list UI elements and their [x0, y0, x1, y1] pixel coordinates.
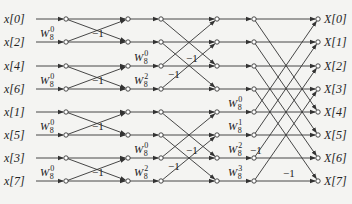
fft-butterfly-diagram: x[0]x[2]x[4]x[6]x[1]x[5]x[3]x[7]X[0]X[1]… [0, 0, 352, 204]
node [126, 87, 130, 91]
minus-one-label: −1 [92, 166, 104, 178]
twiddle-factor-label: W08 [228, 95, 242, 112]
node [252, 17, 256, 21]
minus-one-label: −1 [92, 120, 104, 132]
node [126, 17, 130, 21]
flow-line [161, 44, 215, 89]
input-label: x[5] [3, 128, 25, 142]
node [316, 17, 320, 21]
twiddle-factor-label: W08 [40, 164, 54, 181]
node [215, 110, 219, 114]
input-label: x[4] [3, 59, 25, 73]
flow-line [161, 42, 215, 87]
node [215, 40, 219, 44]
node [64, 40, 68, 44]
output-label: X[2] [323, 59, 347, 73]
twiddle-factor-label: W08 [40, 25, 54, 42]
node [64, 179, 68, 183]
minus-one-label: −1 [92, 74, 104, 86]
flow-line [254, 68, 316, 158]
node [126, 156, 130, 160]
node [64, 64, 68, 68]
flow-line [161, 135, 215, 179]
node [159, 179, 163, 183]
node [126, 133, 130, 137]
minus-one-label: −1 [250, 144, 262, 156]
input-label: x[2] [3, 35, 25, 49]
twiddle-factor-label: W08 [134, 49, 148, 66]
node [215, 133, 219, 137]
output-label: X[5] [323, 128, 347, 142]
node [252, 40, 256, 44]
node [252, 87, 256, 91]
output-label: X[7] [323, 174, 347, 188]
minus-one-label: −1 [168, 160, 180, 172]
node [159, 110, 163, 114]
output-label: X[6] [323, 151, 347, 165]
node [126, 179, 130, 183]
minus-one-label: −1 [283, 167, 295, 179]
input-label: x[7] [3, 174, 25, 188]
twiddle-factor-label: W28 [134, 164, 148, 181]
node [159, 87, 163, 91]
node [126, 64, 130, 68]
node [316, 156, 320, 160]
node [252, 133, 256, 137]
flow-line [254, 21, 316, 112]
twiddle-factor-label: W28 [228, 141, 242, 158]
node [159, 17, 163, 21]
node [316, 64, 320, 68]
node [316, 40, 320, 44]
minus-one-label: −1 [186, 144, 198, 156]
flow-line [254, 66, 316, 156]
input-label: x[3] [3, 151, 25, 165]
minus-one-label: −1 [186, 52, 198, 64]
twiddle-factor-label: W28 [134, 72, 148, 89]
flow-line [254, 89, 316, 179]
node [252, 156, 256, 160]
node [64, 87, 68, 91]
node [64, 133, 68, 137]
node [126, 110, 130, 114]
node [252, 110, 256, 114]
node [252, 179, 256, 183]
node [316, 110, 320, 114]
node [215, 156, 219, 160]
output-label: X[3] [323, 82, 347, 96]
flow-line [254, 44, 316, 135]
output-label: X[0] [323, 12, 347, 26]
node [64, 156, 68, 160]
node [215, 64, 219, 68]
node [316, 87, 320, 91]
twiddle-factor-label: W08 [134, 141, 148, 158]
node [252, 64, 256, 68]
node [64, 110, 68, 114]
node [316, 179, 320, 183]
input-label: x[1] [3, 105, 25, 119]
node [316, 133, 320, 137]
node [126, 40, 130, 44]
node [215, 179, 219, 183]
input-label: x[6] [3, 82, 25, 96]
node [159, 133, 163, 137]
twiddle-factor-label: W08 [40, 72, 54, 89]
node [159, 40, 163, 44]
minus-one-label: −1 [92, 27, 104, 39]
twiddle-factor-label: W38 [228, 164, 242, 181]
node [159, 64, 163, 68]
output-label: X[4] [323, 105, 347, 119]
input-label: x[0] [3, 12, 25, 26]
flow-line [254, 19, 316, 110]
node [159, 156, 163, 160]
flow-line [254, 42, 316, 133]
node [64, 17, 68, 21]
twiddle-factor-label: W18 [228, 118, 242, 135]
twiddle-factor-label: W08 [40, 118, 54, 135]
node [215, 87, 219, 91]
node [215, 17, 219, 21]
minus-one-label: −1 [168, 68, 180, 80]
output-label: X[1] [323, 35, 347, 49]
